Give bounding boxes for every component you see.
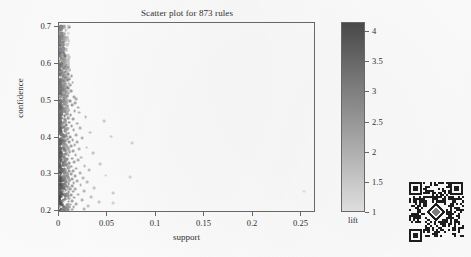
data-point	[89, 131, 92, 134]
colorbar-tick-label: 3	[372, 86, 376, 96]
data-point	[61, 154, 64, 157]
data-point	[65, 144, 68, 147]
data-point	[67, 197, 70, 200]
data-point	[62, 168, 65, 171]
y-tick-mark	[54, 26, 58, 27]
y-tick-mark	[54, 63, 58, 64]
data-point	[81, 137, 84, 140]
data-point	[130, 142, 133, 145]
figure-page: Scatter plot for 873 rules 0.20.30.40.50…	[0, 0, 471, 257]
x-tick-mark	[58, 212, 59, 216]
data-point	[66, 172, 69, 175]
colorbar-title: lift	[336, 215, 370, 225]
data-point	[63, 94, 66, 97]
data-point	[63, 158, 66, 161]
data-point	[71, 138, 74, 141]
data-point	[72, 118, 75, 121]
y-tick-label: 0.4	[24, 132, 51, 142]
x-tick-mark	[106, 212, 107, 216]
data-point	[65, 113, 68, 116]
data-point	[68, 83, 71, 86]
x-axis-label: support	[58, 232, 315, 242]
data-point	[81, 177, 84, 180]
data-point	[69, 144, 72, 147]
data-point	[77, 193, 80, 196]
data-point	[65, 159, 68, 162]
data-point	[79, 184, 82, 187]
data-point	[62, 135, 65, 138]
data-point	[93, 187, 96, 190]
data-point	[63, 26, 66, 29]
data-point	[67, 57, 70, 60]
data-point	[77, 159, 80, 162]
data-point	[112, 202, 115, 205]
data-point	[71, 208, 74, 211]
x-tick-label: 0.05	[99, 218, 114, 228]
data-point	[75, 167, 78, 170]
colorbar-tick-mark	[365, 61, 369, 62]
data-point	[65, 71, 68, 74]
y-tick-mark	[54, 100, 58, 101]
x-tick-label: 0.15	[196, 218, 211, 228]
x-tick-mark	[300, 212, 301, 216]
data-point	[59, 112, 62, 115]
data-point	[66, 99, 69, 102]
data-point	[74, 102, 77, 105]
data-point	[64, 194, 67, 197]
data-point	[70, 124, 73, 127]
data-point	[64, 49, 67, 52]
data-point	[61, 35, 64, 38]
data-point	[59, 183, 61, 186]
data-point	[75, 133, 78, 136]
y-tick-label: 0.6	[24, 58, 51, 68]
scatter-points-layer	[59, 23, 314, 211]
data-point	[59, 205, 61, 208]
data-point	[77, 148, 80, 151]
qr-code[interactable]	[405, 176, 467, 248]
data-point	[61, 180, 64, 183]
data-point	[80, 199, 83, 202]
data-point	[65, 209, 68, 211]
data-point	[59, 152, 61, 155]
data-point	[78, 172, 81, 175]
data-point	[111, 192, 114, 195]
data-point	[61, 46, 64, 49]
data-point	[59, 127, 61, 130]
data-point	[76, 180, 79, 183]
data-point	[77, 106, 80, 109]
data-point	[88, 169, 91, 172]
colorbar	[341, 22, 365, 212]
colorbar-tick-mark	[365, 91, 369, 92]
data-point	[75, 202, 78, 205]
data-point	[70, 173, 73, 176]
data-point	[71, 178, 74, 181]
data-point	[59, 107, 62, 110]
data-point	[83, 165, 86, 168]
data-point	[59, 62, 61, 65]
x-tick-label: 0.2	[247, 218, 258, 228]
data-point	[84, 116, 87, 119]
data-point	[66, 27, 69, 30]
data-point	[61, 162, 64, 165]
data-point	[60, 86, 63, 89]
data-point	[104, 174, 107, 177]
data-point	[73, 144, 76, 147]
data-point	[60, 199, 63, 202]
colorbar-tick-label: 2	[372, 147, 376, 157]
data-point	[92, 152, 95, 155]
data-point	[62, 40, 65, 43]
data-point	[67, 127, 70, 130]
data-point	[129, 176, 132, 179]
data-point	[61, 100, 64, 103]
data-point	[75, 98, 78, 101]
data-point	[67, 188, 70, 191]
y-tick-label: 0.3	[24, 168, 51, 178]
colorbar-tick-mark	[365, 31, 369, 32]
data-point	[60, 29, 63, 32]
data-point	[98, 163, 101, 166]
data-point	[64, 128, 67, 131]
data-point	[63, 117, 66, 120]
data-point	[67, 32, 70, 35]
x-tick-label: 0.25	[293, 218, 308, 228]
data-point	[59, 147, 62, 150]
